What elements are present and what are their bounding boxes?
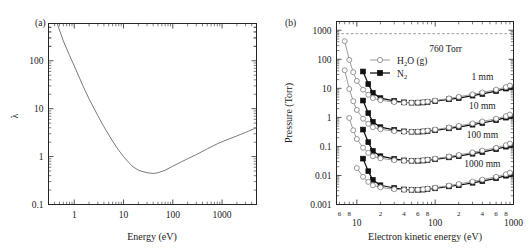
legend-entry-h2o: H2O (g) (370, 56, 428, 67)
marker-h2o (470, 150, 475, 155)
marker-n2 (366, 169, 371, 174)
marker-h2o (425, 99, 430, 104)
marker-h2o (402, 187, 407, 192)
panel-b-y-axis-title: Pressure (Torr) (283, 83, 295, 143)
marker-h2o (370, 183, 375, 188)
panel-b-svg: (b) 101001000 6824682468 0.0010.010.1110… (266, 0, 532, 251)
marker-n2 (361, 156, 366, 161)
marker-h2o (507, 112, 512, 117)
panel-b-xtick-minor: 8 (347, 210, 351, 218)
panel-a-x-tick-labels: 1101001000 (72, 210, 232, 220)
panel-b-ytick: 0.01 (315, 171, 332, 181)
panel-a-plot-frame (49, 24, 257, 205)
legend-label-h2o: H2O (g) (397, 56, 428, 67)
panel-a-ytick: 100 (29, 56, 44, 66)
marker-h2o (378, 185, 383, 190)
marker-h2o (409, 100, 414, 105)
panel-b-xtick-minor: 8 (426, 210, 430, 218)
panel-a-xtick: 1000 (213, 210, 232, 220)
marker-h2o (507, 141, 512, 146)
marker-h2o (392, 158, 397, 163)
marker-h2o (402, 129, 407, 134)
marker-h2o (366, 121, 371, 126)
marker-h2o (361, 87, 366, 92)
marker-h2o (378, 127, 383, 132)
marker-h2o (370, 154, 375, 159)
marker-h2o (425, 157, 430, 162)
panel-b-ytick: 1000 (313, 26, 332, 36)
marker-h2o (409, 158, 414, 163)
panel-a-xtick: 10 (119, 210, 129, 220)
marker-h2o (494, 116, 499, 121)
marker-h2o (347, 57, 352, 62)
panel-b-xtick-minor: 4 (481, 210, 485, 218)
panel-b-xtick-minor: 8 (504, 210, 508, 218)
marker-h2o (361, 145, 366, 150)
marker-n2 (361, 69, 366, 74)
panel-b-x-tick-labels: 101001000 (352, 218, 523, 228)
marker-h2o (354, 107, 359, 112)
marker-h2o (470, 92, 475, 97)
marker-h2o (354, 166, 359, 171)
curve-label-1-mm: 1 mm (471, 72, 494, 82)
marker-h2o (392, 129, 397, 134)
marker-h2o (370, 96, 375, 101)
marker-h2o (480, 177, 485, 182)
marker-h2o (409, 187, 414, 192)
marker-h2o (415, 100, 420, 105)
panel-b-xtick-minor: 2 (457, 210, 461, 218)
panel-b-xtick-minor: 2 (379, 210, 383, 218)
marker-h2o (354, 78, 359, 83)
panel-a-ytick: 0.1 (32, 200, 44, 210)
panel-a-label: (a) (35, 18, 46, 29)
panel-b-y-tick-labels: 0.0010.010.11101001000 (310, 26, 332, 210)
curve-label-10-mm: 10 mm (469, 101, 496, 111)
marker-h2o (494, 145, 499, 150)
panel-b-ytick: 1 (327, 113, 332, 123)
marker-h2o (342, 39, 347, 44)
marker-h2o (351, 70, 356, 75)
marker-h2o (366, 179, 371, 184)
panel-a-ytick: 1 (39, 152, 44, 162)
marker-n2 (366, 82, 371, 87)
marker-h2o (446, 183, 451, 188)
marker-h2o (494, 174, 499, 179)
marker-h2o (342, 68, 347, 73)
marker-h2o (366, 150, 371, 155)
marker-n2 (361, 127, 366, 132)
marker-h2o (370, 125, 375, 130)
panel-a-x-axis-title: Energy (eV) (127, 231, 177, 243)
panel-b-ytick: 0.001 (310, 200, 332, 210)
marker-h2o (425, 128, 430, 133)
marker-h2o (470, 179, 475, 184)
panel-a-xtick: 1 (72, 210, 77, 220)
marker-h2o (456, 181, 461, 186)
marker-h2o (347, 116, 352, 121)
marker-h2o (494, 87, 499, 92)
panel-b-xtick: 10 (352, 218, 362, 228)
marker-h2o (402, 158, 407, 163)
marker-h2o (415, 129, 420, 134)
marker-h2o (456, 94, 461, 99)
panel-a-ticks (49, 24, 257, 205)
panel-a-xtick: 100 (166, 210, 181, 220)
marker-n2 (366, 111, 371, 116)
marker-h2o (415, 158, 420, 163)
marker-h2o (402, 100, 407, 105)
curve-label-1000-mm: 1000 mm (464, 159, 501, 169)
panel-b: (b) 101001000 6824682468 0.0010.010.1110… (266, 0, 532, 251)
marker-h2o (470, 121, 475, 126)
marker-h2o (351, 99, 356, 104)
panel-b-xtick-minor: 6 (338, 210, 342, 218)
panel-a: (a) 1101001000 0.1110100 Energy (eV) λ (0, 0, 266, 251)
marker-h2o (425, 186, 430, 191)
panel-a-curve (57, 24, 256, 174)
marker-h2o (347, 86, 352, 91)
marker-h2o (456, 123, 461, 128)
marker-h2o (456, 152, 461, 157)
curve-label-100-mm: 100 mm (467, 130, 499, 140)
marker-h2o (378, 156, 383, 161)
marker-h2o (507, 83, 512, 88)
panel-b-xtick: 1000 (504, 218, 523, 228)
panel-b-x-axis-title: Electron kinetic energy (eV) (368, 231, 482, 243)
